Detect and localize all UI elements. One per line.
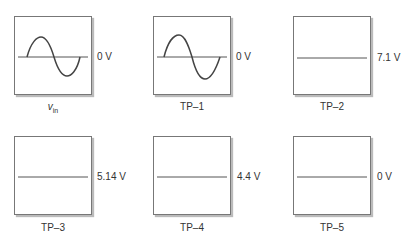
voltage-value-tp2: 7.1 V bbox=[377, 52, 400, 63]
scope-display-tp4 bbox=[153, 136, 231, 215]
sine-waveform-icon bbox=[154, 17, 230, 94]
panel-label-tp4: TP–4 bbox=[153, 222, 231, 233]
voltage-value-tp3: 5.14 V bbox=[97, 171, 126, 182]
dc-line-icon bbox=[154, 137, 230, 214]
dc-line-icon bbox=[294, 137, 370, 214]
voltage-value-vin: 0 V bbox=[97, 51, 112, 62]
panel-label-tp3: TP–3 bbox=[14, 222, 92, 233]
panel-label-tp5: TP–5 bbox=[293, 222, 371, 233]
panel-label-vin: vin bbox=[14, 101, 92, 114]
scope-display-tp5 bbox=[293, 136, 371, 215]
dc-line-icon bbox=[294, 17, 370, 94]
sine-waveform-icon bbox=[15, 17, 91, 94]
scope-display-tp1 bbox=[153, 16, 231, 95]
scope-display-tp3 bbox=[14, 136, 92, 215]
voltage-value-tp1: 0 V bbox=[236, 51, 251, 62]
panel-label-tp2: TP–2 bbox=[293, 101, 371, 112]
voltage-value-tp5: 0 V bbox=[377, 171, 392, 182]
panel-label-tp1: TP–1 bbox=[153, 101, 231, 112]
voltage-value-tp4: 4.4 V bbox=[237, 171, 260, 182]
dc-line-icon bbox=[15, 137, 91, 214]
scope-display-tp2 bbox=[293, 16, 371, 95]
scope-display-vin bbox=[14, 16, 92, 95]
label-subscript: in bbox=[53, 107, 58, 114]
